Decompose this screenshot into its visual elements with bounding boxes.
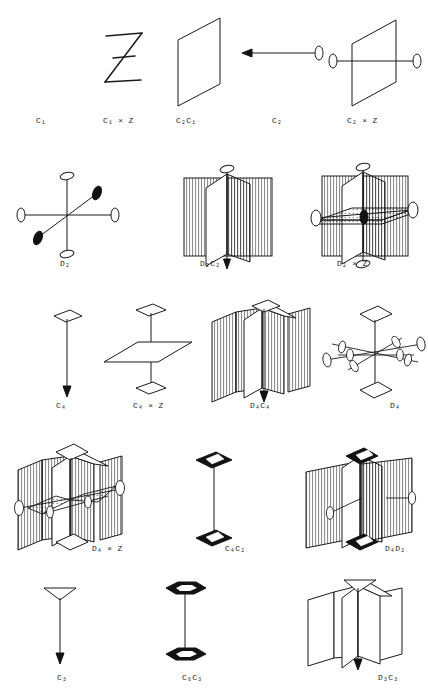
fourfold-plus-plane-icon bbox=[96, 296, 206, 402]
label-c2-x-z: C₂ × Z bbox=[347, 116, 378, 125]
label-c2: C₂ bbox=[272, 116, 282, 125]
mirror-plane-icon bbox=[170, 14, 240, 109]
figure-c6-c3 bbox=[154, 578, 216, 668]
figure-c1-x-z bbox=[96, 22, 166, 102]
three-twofold-axes-icon bbox=[10, 166, 125, 261]
four-mirror-planes-icon bbox=[208, 292, 318, 404]
threefold-axis-icon bbox=[36, 578, 86, 668]
figure-c4-x-z bbox=[96, 296, 206, 402]
figure-c2-x-z bbox=[326, 16, 424, 108]
figure-c4 bbox=[40, 300, 94, 400]
d4-axes-icon bbox=[322, 300, 426, 404]
label-c6-c3: C₆C₃ bbox=[182, 673, 202, 682]
figure-c2-c1 bbox=[170, 14, 240, 109]
label-c4-c2: C₄C₂ bbox=[225, 544, 245, 553]
symmetry-diagram-plate: C₁ C₁ × Z C₂C₁ C₂ C₂ × Z D₂ D₂C₂ D₂ × Z … bbox=[0, 0, 428, 697]
figure-d2 bbox=[10, 166, 125, 261]
figure-d3-c3 bbox=[300, 572, 412, 676]
figure-d4-x-z bbox=[12, 438, 140, 554]
label-d2-x-z: D₂ × Z bbox=[337, 259, 368, 268]
figure-c4-c2 bbox=[186, 448, 242, 550]
three-plain-planes-icon bbox=[300, 572, 412, 676]
fourfold-axis-icon bbox=[40, 300, 94, 400]
label-d3-c3: D₃C₃ bbox=[378, 673, 398, 682]
c4-c2-icon bbox=[186, 448, 242, 550]
figure-d4 bbox=[322, 300, 426, 404]
label-d4: D₄ bbox=[390, 401, 400, 410]
letter-z-icon bbox=[96, 22, 166, 102]
label-d4-c4: D₄C₄ bbox=[250, 401, 270, 410]
figure-d4-c4 bbox=[208, 292, 318, 404]
c1-glyph bbox=[20, 30, 60, 100]
label-c4: C₄ bbox=[56, 401, 66, 410]
figure-d2-c2 bbox=[180, 162, 282, 270]
planes-plus-horizontal-icon bbox=[312, 160, 422, 272]
label-c1-x-z: C₁ × Z bbox=[103, 116, 134, 125]
label-c3: C₃ bbox=[57, 673, 67, 682]
d4-x-z-icon bbox=[12, 438, 140, 554]
label-c4-x-z: C₄ × Z bbox=[133, 401, 164, 410]
label-d2: D₂ bbox=[60, 259, 70, 268]
sixfold-axis-icon bbox=[154, 578, 216, 668]
label-d2-c2: D₂C₂ bbox=[200, 259, 220, 268]
label-c2-c1: C₂C₁ bbox=[176, 116, 196, 125]
figure-d4-d2 bbox=[300, 442, 422, 556]
two-mirror-planes-icon bbox=[180, 162, 282, 270]
label-d4-d2: D₄D₂ bbox=[385, 544, 405, 553]
figure-c1 bbox=[20, 30, 60, 100]
plane-with-axis-icon bbox=[326, 16, 424, 108]
figure-d2-x-z bbox=[312, 160, 422, 272]
label-c1: C₁ bbox=[36, 116, 46, 125]
d4-d2-icon bbox=[300, 442, 422, 556]
label-d4-x-z: D₄ × Z bbox=[92, 544, 123, 553]
twofold-axis-icon bbox=[240, 38, 332, 68]
figure-c2 bbox=[240, 38, 332, 68]
figure-c3 bbox=[36, 578, 86, 668]
